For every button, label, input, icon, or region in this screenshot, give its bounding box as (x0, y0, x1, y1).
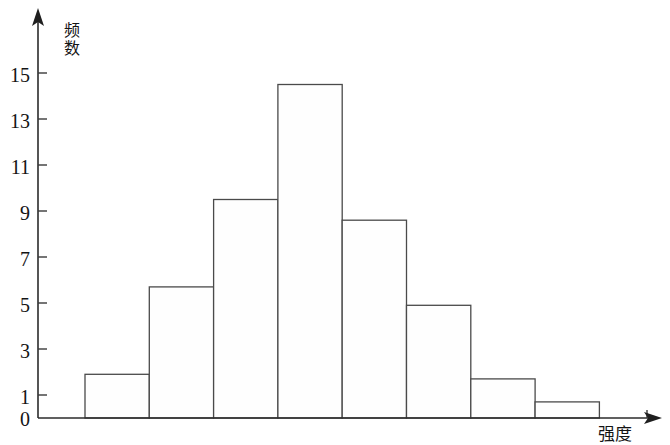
y-axis-title-group: 频 数 (64, 21, 80, 58)
y-axis (32, 8, 47, 418)
bar-7 (471, 379, 535, 418)
y-tick-labels: 15 13 11 9 7 5 3 1 0 (10, 64, 30, 430)
y-tick-label-11: 11 (11, 156, 30, 178)
bar-5 (342, 220, 406, 418)
bar-8 (535, 402, 599, 418)
bar-6 (407, 305, 471, 418)
bar-3 (214, 200, 278, 419)
bars-group (85, 85, 599, 419)
chart-canvas: 15 13 11 9 7 5 3 1 0 强度 频 数 (0, 0, 670, 445)
histogram-chart: 15 13 11 9 7 5 3 1 0 强度 频 数 (0, 0, 670, 445)
y-tick-label-5: 5 (20, 294, 30, 316)
y-tick-label-7: 7 (20, 248, 30, 270)
y-tick-label-3: 3 (20, 340, 30, 362)
y-axis-title-char-2: 数 (64, 39, 80, 58)
y-tick-label-1: 1 (20, 386, 30, 408)
bar-2 (149, 287, 213, 418)
y-tick-label-13: 13 (10, 110, 30, 132)
y-tick-label-15: 15 (10, 64, 30, 86)
y-tick-label-9: 9 (20, 202, 30, 224)
y-tick-label-0: 0 (20, 408, 30, 430)
y-axis-title-char-1: 频 (64, 21, 80, 40)
bar-4 (278, 85, 342, 419)
x-axis-title: 强度 (598, 424, 632, 444)
bar-1 (85, 374, 149, 418)
